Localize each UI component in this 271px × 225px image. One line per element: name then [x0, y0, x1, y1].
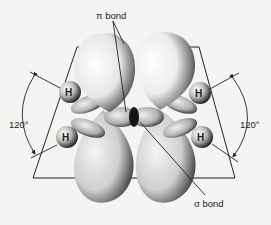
angle-label-left: 120°	[9, 120, 29, 130]
h-label: H	[62, 132, 69, 143]
pi-bond-label: π bond	[96, 11, 126, 21]
sp2-orbital-lobes	[68, 90, 199, 141]
h-label: H	[197, 132, 204, 143]
ethylene-orbital-diagram: H H H H	[0, 0, 271, 225]
h-label: H	[195, 88, 202, 99]
angle-annotation-right	[210, 73, 248, 162]
angle-label-right: 120°	[240, 120, 260, 130]
sigma-bond-label: σ bond	[194, 199, 224, 209]
h-label: H	[65, 87, 72, 98]
